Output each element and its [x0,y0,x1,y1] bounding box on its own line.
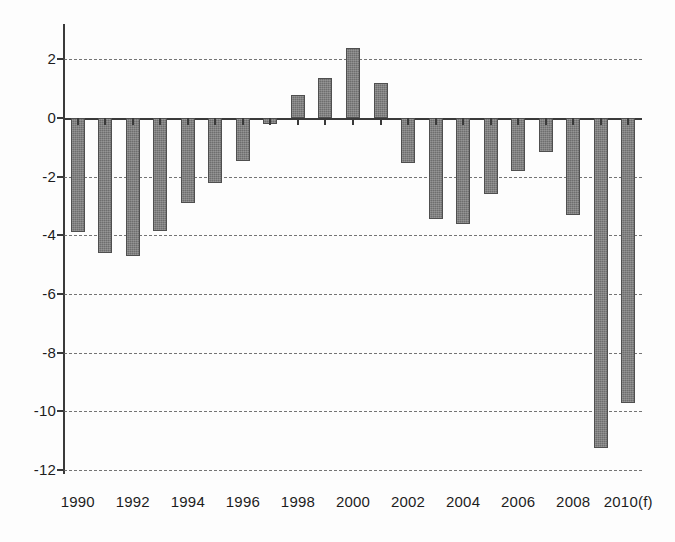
x-tick-mark [407,118,409,125]
x-tick-label: 1998 [281,494,315,510]
y-tick-label: -2 [10,169,56,184]
x-tick-mark [187,118,189,125]
y-tick-label: -12 [10,462,56,477]
gridline [64,411,642,412]
y-tick-mark [57,469,64,471]
x-tick-mark [435,118,437,125]
x-tick-mark [214,118,216,125]
x-tick-mark [269,118,271,125]
gridline [64,353,642,354]
x-tick-mark [104,118,106,125]
x-tick-mark [352,118,354,125]
bar [484,118,498,194]
gridline [64,470,642,471]
x-tick-mark [490,118,492,125]
bar [98,118,112,253]
x-tick-label: 2002 [391,494,425,510]
bar [594,118,608,448]
x-tick-mark [132,118,134,125]
x-tick-mark [324,118,326,125]
y-tick-mark [57,58,64,60]
bar [566,118,580,215]
bar [456,118,470,224]
bar [318,78,332,118]
y-tick-mark [57,352,64,354]
bar [346,48,360,118]
bar [621,118,635,403]
x-tick-mark [600,118,602,125]
y-tick-mark [57,176,64,178]
y-tick-label: -10 [10,403,56,418]
x-tick-mark [517,118,519,125]
x-tick-mark [627,118,629,125]
x-tick-label: 2008 [556,494,590,510]
y-tick-label: 2 [10,51,56,66]
bar [374,83,388,118]
x-tick-label: 2010(f) [604,494,653,510]
gridline [64,177,642,178]
x-tick-label: 2000 [336,494,370,510]
x-tick-label: 1996 [226,494,260,510]
bar [126,118,140,256]
bar [153,118,167,231]
x-tick-mark [77,118,79,125]
bar [429,118,443,219]
x-tick-label: 1990 [61,494,95,510]
y-tick-label: -4 [10,227,56,242]
bar-chart: 20-2-4-6-8-10-12 19901992199419961998200… [0,0,675,542]
bar [71,118,85,232]
bar [208,118,222,183]
gridline [64,294,642,295]
x-tick-label: 2006 [501,494,535,510]
x-tick-label: 1992 [116,494,150,510]
bar [181,118,195,203]
x-tick-mark [572,118,574,125]
bar [511,118,525,171]
x-tick-mark [242,118,244,125]
x-tick-mark [462,118,464,125]
y-tick-mark [57,234,64,236]
plot-area [64,30,642,470]
y-tick-label: 0 [10,110,56,125]
y-tick-mark [57,410,64,412]
y-tick-label: -6 [10,286,56,301]
y-tick-label: -8 [10,345,56,360]
x-tick-mark [380,118,382,125]
x-tick-label: 1994 [171,494,205,510]
bar [291,95,305,118]
y-tick-mark [57,117,64,119]
x-tick-label: 2004 [446,494,480,510]
y-tick-mark [57,293,64,295]
x-tick-mark [159,118,161,125]
gridline [64,235,642,236]
x-tick-mark [545,118,547,125]
x-tick-mark [297,118,299,125]
